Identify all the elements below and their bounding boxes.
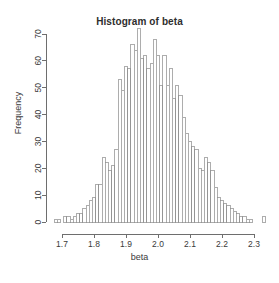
histogram-bar <box>224 203 227 222</box>
y-tick-label: 30 <box>33 136 43 146</box>
histogram-bar <box>198 168 201 222</box>
histogram-bar <box>169 69 172 222</box>
histogram-bar <box>195 149 198 222</box>
histogram-bar <box>188 141 191 222</box>
histogram-bar <box>240 217 243 222</box>
histogram-bar <box>70 219 73 222</box>
x-tick-label: 2.3 <box>248 239 260 249</box>
histogram-bar <box>86 206 89 222</box>
histogram-bar <box>227 206 230 222</box>
x-tick-label: 1.9 <box>120 239 132 249</box>
histogram-bar <box>204 158 207 222</box>
histogram-bar <box>249 219 252 222</box>
histogram-bar <box>201 171 204 222</box>
histogram-bars <box>54 29 265 222</box>
histogram-bar <box>153 39 156 222</box>
histogram-bar <box>144 55 147 222</box>
histogram-bar <box>124 66 127 222</box>
histogram-bar <box>182 117 185 222</box>
histogram-bar <box>140 58 143 222</box>
y-tick-label: 60 <box>33 56 43 66</box>
histogram-bar <box>99 184 102 222</box>
y-tick-label: 70 <box>33 29 43 39</box>
histogram-bar <box>220 201 223 222</box>
y-tick-label: 10 <box>33 190 43 200</box>
histogram-bar <box>163 55 166 222</box>
histogram-bar <box>243 217 246 222</box>
histogram-bar <box>211 171 214 222</box>
histogram-bar <box>236 214 239 222</box>
histogram-bar <box>233 211 236 222</box>
histogram-bar <box>147 69 150 222</box>
histogram-bar <box>262 217 265 222</box>
histogram-bar <box>64 217 67 222</box>
histogram-bar <box>83 209 86 222</box>
histogram-bar <box>57 219 60 222</box>
histogram-bar <box>166 85 169 222</box>
histogram-bar <box>160 85 163 222</box>
histogram-bar <box>54 219 57 222</box>
histogram-bar <box>108 171 111 222</box>
y-tick-label: 0 <box>33 219 43 224</box>
histogram-plot: Histogram of beta 010203040506070 1.71.8… <box>0 0 279 283</box>
histogram-bar <box>105 163 108 222</box>
histogram-bar <box>73 217 76 222</box>
histogram-bar <box>92 198 95 222</box>
histogram-bar <box>115 149 118 222</box>
y-tick-label: 40 <box>33 110 43 120</box>
histogram-bar <box>121 90 124 222</box>
x-tick-label: 2.2 <box>216 239 228 249</box>
histogram-bar <box>102 158 105 222</box>
histogram-bar <box>118 80 121 222</box>
y-axis-label: Frequency <box>13 73 23 153</box>
histogram-bar <box>217 198 220 222</box>
histogram-bar <box>185 133 188 222</box>
histogram-bar <box>172 98 175 222</box>
histogram-bar <box>128 69 131 222</box>
x-tick-label: 2.0 <box>152 239 164 249</box>
histogram-bar <box>134 50 137 222</box>
y-axis: 010203040506070 <box>33 29 46 224</box>
x-tick-label: 2.1 <box>184 239 196 249</box>
histogram-bar <box>80 214 83 222</box>
histogram-bar <box>230 209 233 222</box>
histogram-bar <box>96 184 99 222</box>
histogram-bar <box>192 147 195 222</box>
x-axis: 1.71.81.92.02.12.22.3 <box>56 234 260 249</box>
x-tick-label: 1.7 <box>56 239 68 249</box>
histogram-bar <box>208 163 211 222</box>
histogram-bar <box>150 64 153 222</box>
image-bottom-margin <box>0 268 279 283</box>
y-tick-label: 50 <box>33 83 43 93</box>
histogram-bar <box>176 85 179 222</box>
plot-canvas: 010203040506070 1.71.81.92.02.12.22.3 <box>0 0 279 283</box>
histogram-bar <box>137 29 140 222</box>
histogram-bar <box>67 217 70 222</box>
histogram-bar <box>131 45 134 222</box>
histogram-bar <box>214 187 217 222</box>
histogram-bar <box>246 219 249 222</box>
histogram-bar <box>76 214 79 222</box>
histogram-bar <box>156 55 159 222</box>
histogram-bar <box>89 201 92 222</box>
y-tick-label: 20 <box>33 163 43 173</box>
x-tick-label: 1.8 <box>88 239 100 249</box>
histogram-bar <box>112 166 115 222</box>
x-axis-label: beta <box>0 252 279 262</box>
histogram-bar <box>179 96 182 222</box>
